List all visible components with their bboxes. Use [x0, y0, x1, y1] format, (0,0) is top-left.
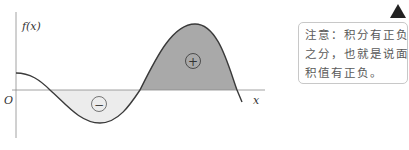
y-axis-label: f(x) [21, 20, 41, 33]
positive-marker: + [188, 55, 198, 69]
origin-label: O [4, 94, 13, 107]
note-line: 之分，也就是说面 [305, 45, 407, 64]
note-line: 注意：积分有正负 [305, 26, 407, 45]
note-box: 注意：积分有正负 之分，也就是说面 积值有正负。 [298, 22, 408, 84]
integral-sign-diagram: − + f(x) x O [0, 0, 290, 150]
negative-marker: − [94, 98, 104, 112]
warning-triangle-icon [390, 4, 406, 18]
x-axis-label: x [253, 94, 260, 107]
note-line: 积值有正负。 [305, 64, 407, 83]
